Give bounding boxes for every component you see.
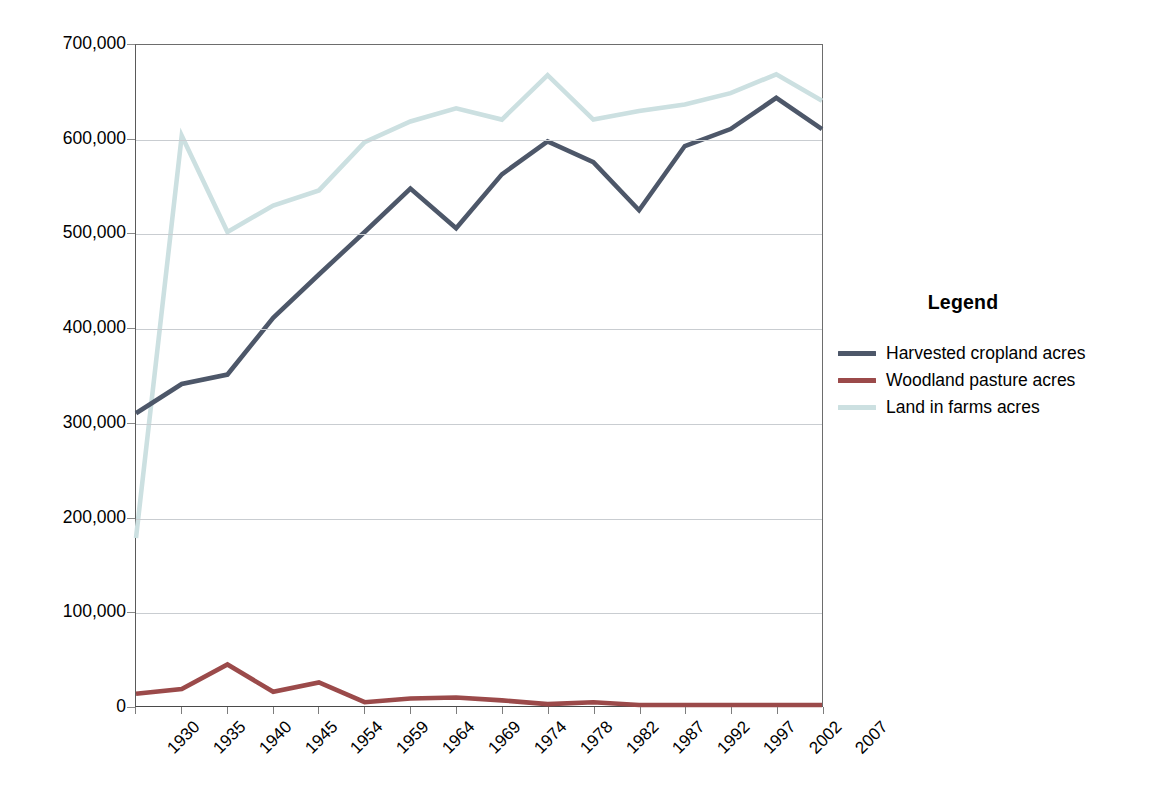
legend-item-label: Harvested cropland acres: [886, 345, 1085, 363]
x-axis-tick-label: 1940: [256, 718, 295, 757]
y-axis-tick-mark: [127, 518, 135, 519]
y-axis-tick-label: 600,000: [14, 130, 126, 148]
series-lines: [136, 45, 822, 706]
legend-color-swatch: [838, 378, 876, 383]
y-axis-tick-label: 700,000: [14, 35, 126, 53]
x-axis-tick-mark: [640, 707, 641, 714]
y-axis-tick-mark: [127, 707, 135, 708]
y-axis-tick-mark: [127, 612, 135, 613]
x-axis-tick-label: 1987: [669, 718, 708, 757]
gridline: [136, 519, 822, 520]
x-axis-tick-label: 1974: [531, 718, 570, 757]
x-axis-tick-mark: [685, 707, 686, 714]
x-axis-tick-mark: [410, 707, 411, 714]
y-axis-tick-label: 200,000: [14, 509, 126, 527]
y-axis-tick-mark: [127, 44, 135, 45]
x-axis-tick-label: 2007: [852, 718, 891, 757]
legend-item-label: Woodland pasture acres: [886, 372, 1075, 390]
y-axis-tick-label: 0: [14, 698, 126, 716]
series-line: [136, 98, 822, 413]
gridline: [136, 329, 822, 330]
x-axis-tick-label: 1959: [393, 718, 432, 757]
x-axis-tick-label: 1997: [760, 718, 799, 757]
legend-rows: Harvested cropland acresWoodland pasture…: [838, 340, 1138, 421]
y-axis-tick-mark: [127, 423, 135, 424]
plot-area: [135, 44, 823, 707]
x-axis-tick-mark: [181, 707, 182, 714]
series-line: [136, 664, 822, 705]
legend-item: Woodland pasture acres: [838, 367, 1138, 394]
x-axis-tick-mark: [594, 707, 595, 714]
gridline: [136, 424, 822, 425]
gridline: [136, 234, 822, 235]
y-axis-tick-mark: [127, 233, 135, 234]
x-axis-tick-mark: [364, 707, 365, 714]
x-axis-tick-label: 1978: [577, 718, 616, 757]
x-axis-tick-mark: [502, 707, 503, 714]
legend-color-swatch: [838, 405, 876, 410]
y-axis-tick-label: 300,000: [14, 414, 126, 432]
y-axis-tick-label: 500,000: [14, 224, 126, 242]
y-axis-tick-mark: [127, 139, 135, 140]
x-axis-tick-label: 1935: [210, 718, 249, 757]
y-axis: 700,000600,000500,000400,000300,000200,0…: [0, 0, 126, 796]
legend-title: Legend: [838, 291, 1088, 314]
x-axis-tick-label: 1954: [348, 718, 387, 757]
line-chart: 700,000600,000500,000400,000300,000200,0…: [0, 0, 1151, 796]
legend-item: Land in farms acres: [838, 394, 1138, 421]
x-axis-tick-mark: [318, 707, 319, 714]
x-axis-tick-mark: [731, 707, 732, 714]
legend: Legend Harvested cropland acresWoodland …: [838, 291, 1138, 421]
x-axis-tick-label: 1945: [302, 718, 341, 757]
x-axis-tick-mark: [548, 707, 549, 714]
x-axis-tick-label: 1964: [439, 718, 478, 757]
x-axis-tick-mark: [823, 707, 824, 714]
x-axis-tick-label: 1992: [714, 718, 753, 757]
x-axis-tick-mark: [227, 707, 228, 714]
x-axis-tick-mark: [777, 707, 778, 714]
plot-inner: [136, 45, 822, 706]
x-axis-tick-mark: [273, 707, 274, 714]
legend-item: Harvested cropland acres: [838, 340, 1138, 367]
x-axis-tick-label: 1930: [164, 718, 203, 757]
gridline: [136, 140, 822, 141]
y-axis-tick-label: 100,000: [14, 603, 126, 621]
y-axis-tick-label: 400,000: [14, 319, 126, 337]
legend-color-swatch: [838, 351, 876, 356]
series-line: [136, 74, 822, 538]
legend-item-label: Land in farms acres: [886, 399, 1040, 417]
x-axis: 1930193519401945195419591964196919741978…: [135, 707, 823, 796]
y-axis-tick-mark: [127, 328, 135, 329]
x-axis-tick-label: 1982: [623, 718, 662, 757]
x-axis-tick-label: 1969: [485, 718, 524, 757]
x-axis-tick-mark: [135, 707, 136, 714]
x-axis-tick-label: 2002: [806, 718, 845, 757]
gridline: [136, 613, 822, 614]
x-axis-tick-mark: [456, 707, 457, 714]
